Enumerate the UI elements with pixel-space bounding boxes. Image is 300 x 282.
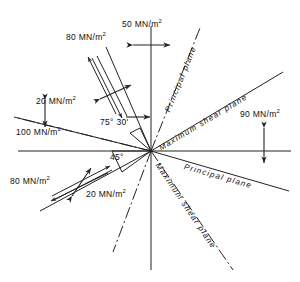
shear-couple-upper-left — [88, 56, 127, 118]
label-80-mn-upper: 80 MN/m2 — [66, 33, 106, 42]
label-100-mn: 100 MN/m2 — [16, 128, 61, 137]
stress-diagram: 50 MN/m2 80 MN/m2 20 MN/m2 100 MN/m2 90 … — [0, 0, 300, 282]
label-20-mn-upper: 20 MN/m2 — [36, 97, 76, 106]
angle-label-75-30: 75° 30' — [100, 118, 128, 127]
angle-label-45: 45° — [110, 153, 124, 162]
label-20-mn-lower: 20 MN/m2 — [86, 190, 126, 199]
label-50-mn: 50 MN/m2 — [122, 20, 162, 29]
label-90-mn: 90 MN/m2 — [240, 110, 280, 119]
angle-75-30-marker — [130, 128, 151, 151]
diagram-canvas — [0, 0, 300, 282]
label-80-mn-lower: 80 MN/m2 — [10, 177, 50, 186]
maximum-shear-plane-line-lower-left — [40, 151, 151, 211]
